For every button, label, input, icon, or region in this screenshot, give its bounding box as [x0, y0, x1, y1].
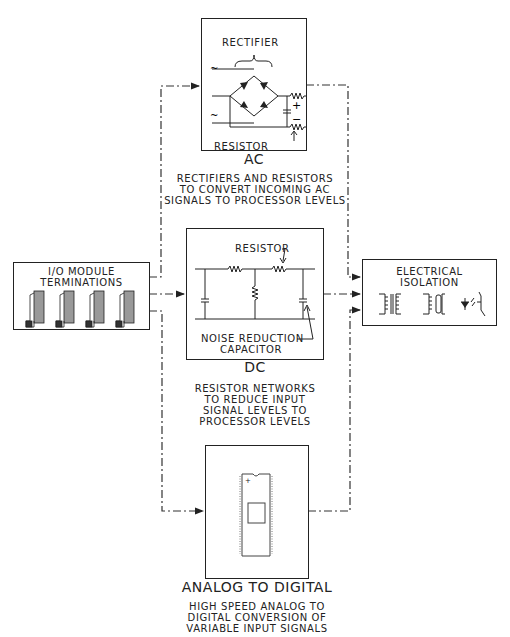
ad-title: ANALOG TO DIGITAL [160, 582, 354, 593]
dc-box: RESISTOR NOISE REDUCTION CAPACITOR [186, 228, 324, 360]
dc-title: DC [186, 362, 324, 373]
svg-text:+: + [245, 477, 251, 485]
reed-relay-icon [423, 294, 445, 314]
transformer-icon [379, 294, 401, 314]
plus-sign: + [292, 99, 301, 112]
minus-sign: − [292, 113, 301, 126]
io-terminations-box: I/O MODULE TERMINATIONS [13, 262, 150, 330]
noise-reduction-capacitor-label: NOISE REDUCTION CAPACITOR [201, 333, 301, 355]
electrical-isolation-box: ELECTRICAL ISOLATION [362, 259, 497, 326]
ac-input-tilde: ~ [210, 63, 218, 74]
dc-resistor-label: RESISTOR [235, 243, 290, 254]
ac-description: RECTIFIERS AND RESISTORS TO CONVERT INCO… [150, 173, 360, 206]
isolation-devices-icon [363, 260, 496, 325]
terminal-blocks-icon [14, 263, 149, 329]
ad-box: + [205, 445, 309, 579]
rectifier-label: RECTIFIER [222, 37, 279, 48]
ac-input-tilde: ~ [210, 110, 218, 121]
ic-chip-icon: + [206, 446, 308, 578]
ac-box: ~ ~ + − RECTIFIER RESISTOR [201, 18, 307, 151]
ad-description: HIGH SPEED ANALOG TO DIGITAL CONVERSION … [160, 601, 354, 634]
ac-title: AC [201, 154, 307, 165]
dc-description: RESISTOR NETWORKS TO REDUCE INPUT SIGNAL… [170, 383, 340, 427]
